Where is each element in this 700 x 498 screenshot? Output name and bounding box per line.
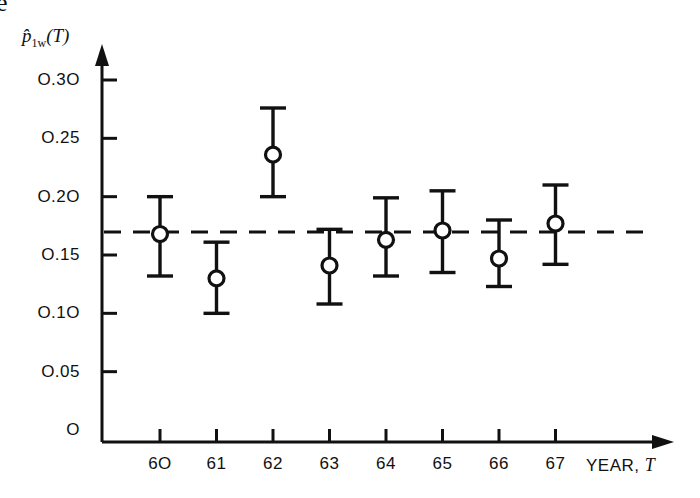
x-tick-label: 6O xyxy=(140,455,180,472)
y-tick-label: O.25 xyxy=(8,129,80,146)
data-point-marker xyxy=(209,271,224,286)
y-axis-tick-marks xyxy=(102,80,117,372)
data-point-marker xyxy=(322,258,337,273)
data-point-marker xyxy=(548,216,563,231)
data-point-marker xyxy=(492,251,507,266)
x-tick-label: 61 xyxy=(197,455,237,472)
y-axis-arrowhead xyxy=(95,44,109,66)
y-axis-origin-label: O xyxy=(8,421,80,438)
x-axis-tick-marks xyxy=(160,429,556,442)
x-tick-label: 64 xyxy=(366,455,406,472)
figure-panel: e p̂1w(T) YEAR, T O.05O.1OO.15O.2OO.25O.… xyxy=(0,0,700,498)
x-tick-label: 62 xyxy=(253,455,293,472)
plot-canvas xyxy=(0,0,700,498)
y-tick-label: O.2O xyxy=(8,188,80,205)
x-tick-label: 63 xyxy=(310,455,350,472)
x-tick-label: 65 xyxy=(423,455,463,472)
x-tick-label: 66 xyxy=(479,455,519,472)
data-point-marker xyxy=(379,232,394,247)
y-tick-label: O.15 xyxy=(8,246,80,263)
x-axis-arrowhead xyxy=(652,435,674,449)
y-tick-label: O.3O xyxy=(8,71,80,88)
data-point-marker xyxy=(153,227,168,242)
y-tick-label: O.05 xyxy=(8,363,80,380)
data-marker-group xyxy=(153,147,564,286)
data-point-marker xyxy=(435,223,450,238)
y-tick-label: O.1O xyxy=(8,304,80,321)
x-tick-label: 67 xyxy=(536,455,576,472)
data-point-marker xyxy=(266,147,281,162)
